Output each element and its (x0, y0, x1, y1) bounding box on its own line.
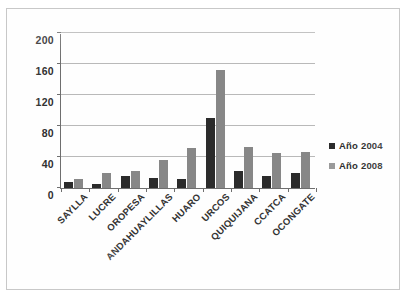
bar (187, 148, 196, 188)
bar (216, 70, 225, 188)
legend-item: Año 2008 (329, 160, 399, 171)
bar-group (118, 34, 146, 188)
bar (244, 147, 253, 188)
bar (206, 118, 215, 188)
chart-legend: Año 2004Año 2008 (329, 140, 399, 180)
bar (177, 179, 186, 188)
legend-swatch-icon (329, 143, 335, 149)
bar (234, 171, 243, 188)
bar (159, 160, 168, 188)
gridline-200 (61, 32, 315, 33)
bar-group (288, 34, 316, 188)
chart-frame: 04080120160200 SAYLLALUCREOROPESAANDAHUA… (6, 8, 400, 290)
legend-swatch-icon (329, 163, 335, 169)
x-axis-label-huaro: HUARO (170, 191, 203, 224)
legend-item: Año 2004 (329, 140, 399, 151)
bar-group (231, 34, 259, 188)
bar (121, 176, 130, 188)
bar-group (259, 34, 287, 188)
bar-group (61, 34, 89, 188)
x-axis-label-saylla: SAYLLA (55, 191, 90, 226)
bar (92, 184, 101, 188)
bar (272, 153, 281, 188)
plot-area: 04080120160200 (60, 34, 315, 189)
bar (262, 176, 271, 188)
bar (74, 179, 83, 188)
bar (149, 178, 158, 188)
bar-group (89, 34, 117, 188)
bar (64, 182, 73, 188)
bar-group (174, 34, 202, 188)
bar (131, 171, 140, 188)
y-tick-mark-200 (57, 32, 61, 33)
bar-group (203, 34, 231, 188)
legend-label: Año 2008 (339, 160, 383, 171)
bar (102, 173, 111, 189)
bar (301, 152, 310, 188)
legend-label: Año 2004 (339, 140, 383, 151)
bar-series-layer (61, 34, 315, 188)
bar (291, 173, 300, 189)
x-axis-category-labels: SAYLLALUCREOROPESAANDAHUAYLILLASHUAROURC… (60, 191, 360, 291)
bar-group (146, 34, 174, 188)
